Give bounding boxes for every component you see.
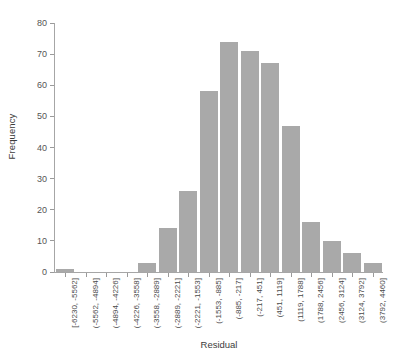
x-axis-tick-mark — [168, 273, 169, 277]
x-axis-tick-mark — [270, 273, 271, 277]
y-axis-tick-label: 70 — [7, 48, 47, 60]
histogram-bar — [179, 191, 197, 272]
x-axis-tick-mark — [311, 273, 312, 277]
x-axis-tick-label: (3792, 4460] — [377, 278, 388, 338]
y-axis-tick-label: 60 — [7, 79, 47, 91]
x-axis-tick-mark — [291, 273, 292, 277]
x-axis-title: Residual — [55, 339, 383, 350]
x-axis-tick-mark — [127, 273, 128, 277]
histogram-bar — [138, 263, 156, 272]
x-axis-tick-label: [-6230, -5562] — [69, 278, 80, 338]
y-axis-tick: 70 — [0, 48, 56, 60]
x-axis-tick-label: (1119, 1788] — [295, 278, 306, 338]
x-axis-tick-label: (-4894, -4226] — [110, 278, 121, 338]
y-axis-tick: 80 — [0, 17, 56, 29]
histogram-bar — [343, 253, 361, 272]
x-axis-tick-mark — [209, 273, 210, 277]
y-axis-tick: 20 — [0, 204, 56, 216]
x-axis-tick-label: (-1553, -885] — [213, 278, 224, 338]
x-axis-tick-mark — [86, 273, 87, 277]
histogram-chart: Frequency 01020304050607080 [-6230, -556… — [0, 0, 404, 360]
x-axis-tick-label: (-2889, -2221] — [172, 278, 183, 338]
y-axis-ticks: 01020304050607080 — [0, 0, 56, 280]
x-axis-tick-label: (-4226, -3558] — [131, 278, 142, 338]
x-axis-tick-label: (3124, 3792] — [356, 278, 367, 338]
x-axis-tick-label: (2456, 3124] — [336, 278, 347, 338]
y-axis-tick: 50 — [0, 110, 56, 122]
x-axis-tick-mark — [65, 273, 66, 277]
y-axis-tick-label: 10 — [7, 235, 47, 247]
histogram-bar — [56, 269, 74, 272]
y-axis-tick: 60 — [0, 79, 56, 91]
histogram-bar — [200, 91, 218, 272]
histogram-bar — [302, 222, 320, 272]
x-axis-tick-mark — [188, 273, 189, 277]
x-axis-tick-mark — [352, 273, 353, 277]
y-axis-tick-label: 40 — [7, 142, 47, 154]
x-axis-tick-mark — [147, 273, 148, 277]
y-axis-tick-label: 30 — [7, 173, 47, 185]
histogram-bar — [364, 263, 382, 272]
y-axis-tick-label: 20 — [7, 204, 47, 216]
histogram-bar — [323, 241, 341, 272]
x-axis-tick-mark — [250, 273, 251, 277]
x-axis-tick-label: (451, 1119] — [274, 278, 285, 338]
x-axis-tick-mark — [106, 273, 107, 277]
x-axis-tick-label: (-885, -217] — [233, 278, 244, 338]
plot-area — [55, 23, 383, 272]
histogram-bar — [220, 42, 238, 272]
x-axis-tick-labels: [-6230, -5562](-5562, -4894](-4894, -422… — [55, 278, 383, 338]
x-axis-tick-mark — [373, 273, 374, 277]
x-axis-tick-label: (-5562, -4894] — [90, 278, 101, 338]
y-axis-tick: 30 — [0, 173, 56, 185]
y-axis-tick-label: 0 — [7, 266, 47, 278]
x-axis-tick-label: (1788, 2456] — [315, 278, 326, 338]
histogram-bar — [159, 228, 177, 272]
histogram-bar — [241, 51, 259, 272]
y-axis-tick: 40 — [0, 142, 56, 154]
x-axis-tick-label: (-217, 451] — [254, 278, 265, 338]
y-axis-tick: 10 — [0, 235, 56, 247]
x-axis-tick-label: (-3558, -2889] — [151, 278, 162, 338]
histogram-bar — [282, 126, 300, 272]
x-axis-tick-mark — [332, 273, 333, 277]
x-axis-tick-label: (-2221, -1553] — [192, 278, 203, 338]
histogram-bar — [261, 63, 279, 272]
x-axis-tick-mark — [229, 273, 230, 277]
y-axis-tick-label: 80 — [7, 17, 47, 29]
y-axis-tick: 0 — [0, 266, 56, 278]
y-axis-tick-label: 50 — [7, 110, 47, 122]
